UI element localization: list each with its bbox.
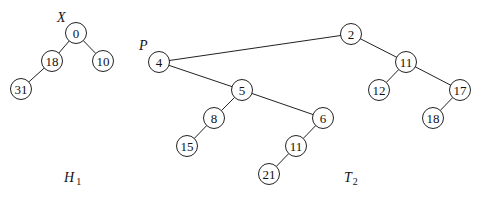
tree-node-t18: 18 — [423, 108, 444, 129]
caption-t2-sub: 2 — [353, 176, 358, 187]
tree-node-t15: 15 — [177, 136, 198, 157]
node-value: 21 — [263, 167, 276, 182]
tree-node-t12: 12 — [369, 80, 390, 101]
tree-node-t6: 6 — [313, 108, 334, 129]
edge-t5-t6 — [242, 90, 323, 118]
node-value: 17 — [454, 83, 468, 98]
node-value: 10 — [97, 54, 110, 69]
node-value: 11 — [400, 55, 413, 70]
caption-t2-main: T — [344, 170, 353, 185]
node-value: 0 — [73, 26, 80, 41]
tree-node-h0: 0 — [66, 23, 87, 44]
caption-h1-sub: 1 — [76, 176, 81, 187]
node-value: 2 — [348, 27, 355, 42]
caption-h1: H1 — [63, 170, 81, 187]
node-value: 15 — [181, 139, 194, 154]
caption-h1-main: H — [63, 170, 75, 185]
tree-node-t21: 21 — [259, 164, 280, 185]
tree-node-t17: 17 — [450, 80, 471, 101]
pointer-label-x: X — [56, 10, 66, 25]
node-value: 12 — [373, 83, 386, 98]
nodes: 01810312411121718581561121 — [11, 23, 471, 185]
node-value: 6 — [320, 111, 327, 126]
edges — [21, 33, 460, 174]
node-value: 5 — [239, 83, 246, 98]
tree-node-h31: 31 — [11, 79, 32, 100]
tree-node-t4: 4 — [149, 52, 170, 73]
tree-node-t5: 5 — [232, 80, 253, 101]
tree-node-t8: 8 — [204, 108, 225, 129]
tree-node-t2: 2 — [341, 24, 362, 45]
node-value: 31 — [15, 82, 28, 97]
caption-t2: T2 — [344, 170, 358, 187]
edge-t4-t5 — [159, 62, 242, 90]
node-value: 18 — [46, 54, 59, 69]
heap-tree-diagram: 01810312411121718581561121 X P H1 T2 — [0, 0, 485, 197]
edge-t2-t4 — [159, 34, 351, 62]
pointer-label-p: P — [138, 38, 148, 53]
node-value: 8 — [211, 111, 218, 126]
tree-node-h10: 10 — [93, 51, 114, 72]
node-value: 4 — [156, 55, 163, 70]
tree-node-h18: 18 — [42, 51, 63, 72]
tree-node-t11b: 11 — [286, 136, 307, 157]
tree-node-t11a: 11 — [396, 52, 417, 73]
node-value: 11 — [290, 139, 303, 154]
node-value: 18 — [427, 111, 440, 126]
